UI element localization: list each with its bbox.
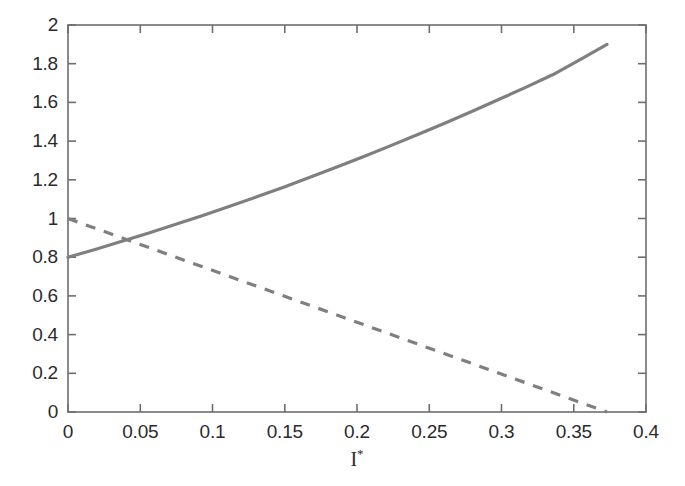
series-dashed-line: [68, 219, 607, 413]
ytick-label-2: 0.4: [14, 324, 58, 346]
x-tick-marks: [68, 404, 646, 412]
xtick-label-8: 0.4: [633, 421, 659, 443]
data-series-group: [68, 44, 607, 412]
xtick-label-6: 0.3: [489, 421, 515, 443]
xtick-label-4: 0.2: [344, 421, 370, 443]
xtick-label-5: 0.25: [411, 421, 447, 443]
ytick-label-5: 1: [14, 208, 58, 230]
x-axis-title: I*: [350, 448, 363, 471]
ytick-label-9: 1.8: [14, 53, 58, 75]
x-tick-marks-top: [68, 25, 646, 33]
x-axis-title-superscript: *: [357, 446, 364, 461]
ytick-label-0: 0: [14, 401, 58, 423]
y-tick-marks-right: [638, 25, 646, 412]
x-axis-title-main: I: [350, 448, 357, 470]
series-solid-curve: [68, 44, 607, 257]
xtick-label-0: 0: [63, 421, 73, 443]
ytick-label-3: 0.6: [14, 285, 58, 307]
xtick-label-2: 0.1: [200, 421, 226, 443]
plot-frame: [68, 25, 646, 412]
ytick-label-8: 1.6: [14, 91, 58, 113]
xtick-label-3: 0.15: [267, 421, 303, 443]
ytick-label-7: 1.4: [14, 130, 58, 152]
ytick-label-10: 2: [14, 14, 58, 36]
ytick-label-4: 0.8: [14, 246, 58, 268]
xtick-label-1: 0.05: [122, 421, 158, 443]
ytick-label-1: 0.2: [14, 362, 58, 384]
xtick-label-7: 0.35: [556, 421, 592, 443]
ytick-label-6: 1.2: [14, 169, 58, 191]
figure-canvas: 0 0.2 0.4 0.6 0.8 1 1.2 1.4 1.6 1.8 2 0 …: [0, 0, 685, 486]
plot-svg: [0, 0, 685, 486]
